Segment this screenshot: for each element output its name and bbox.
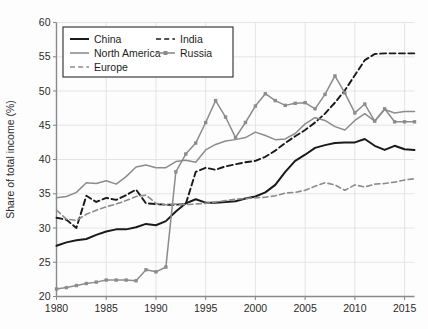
y-tick-label: 25: [39, 256, 51, 268]
y-axis-title: Share of total income (%): [4, 100, 16, 218]
y-tick-label: 30: [39, 222, 51, 234]
y-tick-label: 35: [39, 187, 51, 199]
series-marker: [363, 102, 366, 105]
x-tick-label: 1990: [144, 302, 168, 314]
series-marker: [114, 278, 117, 281]
series-marker: [124, 278, 127, 281]
series-marker: [403, 120, 406, 123]
y-axis-title-text: Share of total income (%): [4, 100, 16, 218]
series-marker: [274, 99, 277, 102]
x-tick-label: 2005: [293, 302, 317, 314]
series-marker: [353, 111, 356, 114]
series-marker: [373, 119, 376, 122]
series-marker: [174, 170, 177, 173]
series-marker: [134, 279, 137, 282]
series-marker: [244, 121, 247, 124]
series-marker: [85, 282, 88, 285]
y-tick-label: 45: [39, 119, 51, 131]
x-tick-label: 2000: [244, 302, 268, 314]
series-marker: [144, 268, 147, 271]
series-marker: [333, 74, 336, 77]
series-marker: [164, 265, 167, 268]
x-tick-label: 2010: [343, 302, 367, 314]
y-tick-label: 55: [39, 50, 51, 62]
series-marker: [194, 141, 197, 144]
series-marker: [224, 115, 227, 118]
series-marker: [343, 91, 346, 94]
series-marker: [323, 93, 326, 96]
legend-label: Europe: [94, 61, 128, 73]
y-tick-label: 20: [39, 290, 51, 302]
series-marker: [65, 286, 68, 289]
series-marker: [234, 136, 237, 139]
chart-legend[interactable]: ChinaIndiaNorth AmericaRussiaEurope: [63, 27, 233, 77]
series-marker: [284, 104, 287, 107]
x-tick-label: 2015: [393, 302, 417, 314]
x-tick-label: 1980: [45, 302, 69, 314]
y-tick-label: 50: [39, 85, 51, 97]
series-marker: [95, 280, 98, 283]
series-marker: [55, 287, 58, 290]
series-marker: [204, 121, 207, 124]
x-tick-label: 1995: [194, 302, 218, 314]
series-marker: [413, 120, 416, 123]
legend-label: China: [94, 33, 122, 45]
chart-figure: 2025303540455055601980198519901995200020…: [0, 0, 428, 329]
x-tick-label: 1985: [95, 302, 119, 314]
series-marker: [264, 92, 267, 95]
series-marker: [393, 120, 396, 123]
series-marker: [105, 278, 108, 281]
legend-marker: [164, 51, 168, 55]
series-marker: [383, 107, 386, 110]
series-marker: [75, 284, 78, 287]
series-marker: [214, 99, 217, 102]
line-chart: 2025303540455055601980198519901995200020…: [0, 0, 428, 329]
series-marker: [313, 107, 316, 110]
legend-label: Russia: [180, 47, 212, 59]
series-marker: [303, 101, 306, 104]
series-marker: [154, 270, 157, 273]
legend-label: India: [180, 33, 203, 45]
y-tick-label: 60: [39, 16, 51, 28]
series-marker: [254, 104, 257, 107]
series-marker: [293, 102, 296, 105]
series-marker: [184, 152, 187, 155]
legend-label: North America: [94, 47, 161, 59]
y-tick-label: 40: [39, 153, 51, 165]
